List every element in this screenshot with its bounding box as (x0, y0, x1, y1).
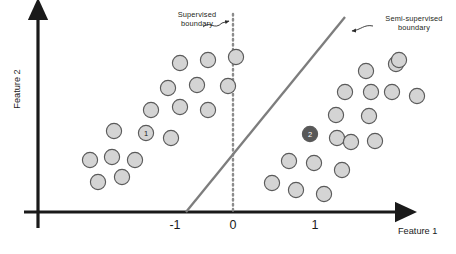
data-point (334, 162, 349, 177)
supervised-boundary-label: Supervised boundary (160, 10, 234, 29)
data-point (228, 49, 243, 64)
point-circle (220, 78, 235, 93)
point-circle (316, 186, 331, 201)
data-point (200, 52, 215, 67)
data-point (409, 88, 424, 103)
data-point (106, 123, 121, 138)
data-point (90, 174, 105, 189)
point-circle (334, 162, 349, 177)
data-point (143, 102, 158, 117)
point-circle (189, 77, 204, 92)
labeled-data-point-2: 2 (302, 126, 317, 141)
point-circle (281, 153, 296, 168)
axes-group (24, 17, 398, 228)
x-tick-label-neg1: -1 (163, 218, 187, 232)
data-point (288, 182, 303, 197)
data-point (328, 107, 343, 122)
data-point (200, 102, 215, 117)
point-circle (90, 174, 105, 189)
point-circle (127, 152, 142, 167)
data-point (220, 78, 235, 93)
data-point (264, 175, 279, 190)
data-point (384, 84, 399, 99)
point-circle (384, 84, 399, 99)
y-axis-title: Feature 2 (12, 59, 22, 119)
point-circle (200, 52, 215, 67)
point-circle (288, 182, 303, 197)
point-label: 2 (308, 130, 312, 139)
point-circle (228, 49, 243, 64)
point-circle (200, 102, 215, 117)
data-point (343, 134, 358, 149)
data-point (316, 186, 331, 201)
point-circle (329, 130, 344, 145)
point-circle (328, 107, 343, 122)
point-circle (363, 84, 378, 99)
data-point (337, 84, 352, 99)
point-circle (82, 152, 97, 167)
data-points-group: 12 (82, 49, 424, 201)
point-circle (391, 52, 406, 67)
point-circle (337, 84, 352, 99)
data-point (114, 169, 129, 184)
data-point (329, 130, 344, 145)
point-circle (306, 155, 321, 170)
data-point (172, 55, 187, 70)
data-point (172, 99, 187, 114)
data-point (281, 153, 296, 168)
point-circle (409, 88, 424, 103)
data-point (361, 108, 376, 123)
point-circle (106, 123, 121, 138)
point-label: 1 (144, 129, 148, 138)
point-circle (361, 108, 376, 123)
point-circle (104, 149, 119, 164)
data-point (306, 155, 321, 170)
data-point (104, 149, 119, 164)
point-circle (367, 133, 382, 148)
point-circle (358, 63, 373, 78)
point-circle (343, 134, 358, 149)
data-point (363, 84, 378, 99)
data-point (367, 133, 382, 148)
diagram-canvas: 12 (0, 0, 456, 254)
point-circle (264, 175, 279, 190)
point-circle (160, 80, 175, 95)
point-circle (114, 169, 129, 184)
data-point (127, 152, 142, 167)
point-circle (143, 102, 158, 117)
semi-supervised-boundary-label: Semi-supervised boundary (374, 14, 454, 33)
point-circle (172, 99, 187, 114)
data-point (391, 52, 406, 67)
x-axis-title: Feature 1 (398, 226, 437, 236)
data-point (163, 130, 178, 145)
figure-container: 12 Supervised boundary Semi-supervised b… (0, 0, 456, 254)
point-circle (163, 130, 178, 145)
data-point (82, 152, 97, 167)
x-tick-label-one: 1 (303, 218, 327, 232)
data-point (189, 77, 204, 92)
labeled-data-point-1: 1 (138, 125, 153, 140)
point-circle (172, 55, 187, 70)
data-point (160, 80, 175, 95)
data-point (358, 63, 373, 78)
semi-supervised-arrow-icon (352, 26, 373, 31)
x-tick-label-zero: 0 (221, 218, 245, 232)
